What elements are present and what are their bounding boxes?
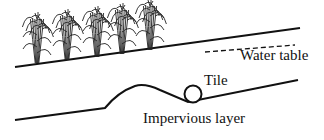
drainage-diagram: Water table Tile Impervious layer: [0, 0, 324, 140]
crop-plants: [22, 0, 166, 63]
plant-icon: [107, 3, 138, 54]
plant-icon: [135, 0, 166, 50]
water-table-label: Water table: [240, 47, 308, 64]
impervious-layer-label: Impervious layer: [143, 110, 245, 127]
plant-icon: [52, 9, 83, 60]
tile-label: Tile: [204, 72, 228, 89]
plant-icon: [22, 12, 53, 63]
tile-pipe-icon: [185, 86, 202, 103]
